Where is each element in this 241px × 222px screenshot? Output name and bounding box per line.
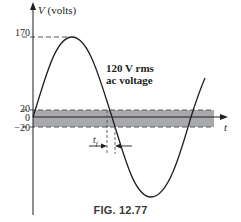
tick-minus-20: −20	[14, 122, 30, 133]
tf-arrowhead-right-icon	[115, 144, 121, 149]
tick-170: 170	[15, 27, 30, 38]
time-axis-arrow-icon	[220, 114, 228, 120]
x-axis-label: t	[224, 121, 228, 133]
annotation-ac: ac voltage	[106, 74, 153, 86]
annotation-rms: 120 V rms	[106, 62, 155, 74]
figure-caption: FIG. 12.77	[0, 204, 241, 216]
shaded-band	[33, 110, 214, 127]
figure: V (volts) 170 20 0 −20 120 V rms ac volt…	[0, 0, 241, 222]
y-axis-label: V (volts)	[38, 4, 77, 17]
voltage-axis-arrow-icon	[30, 2, 36, 10]
tf-arrowhead-left-icon	[101, 144, 107, 149]
